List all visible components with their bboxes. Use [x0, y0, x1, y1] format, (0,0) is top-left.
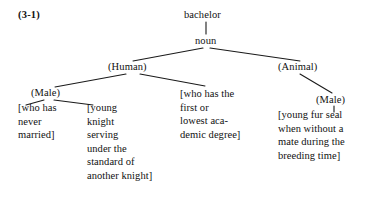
tree-node-animal: (Animal): [278, 61, 317, 72]
edge-human-to-male: [55, 74, 126, 87]
gloss-line: knight: [87, 115, 152, 129]
tree-leaf-unmarried-gloss: [who has never married]: [18, 101, 57, 142]
gloss-line: never: [18, 115, 57, 129]
tree-node-human: (Human): [108, 61, 147, 72]
gloss-line: mate during the: [278, 135, 345, 149]
edge-animal-to-male: [300, 74, 332, 93]
edge-pos-to-human: [133, 48, 203, 61]
gloss-line: [who has the: [180, 87, 240, 101]
tree-leaf-degree-gloss: [who has the first or lowest aca- demic …: [180, 87, 240, 141]
gloss-line: standard of: [87, 155, 152, 169]
gloss-line: [young: [87, 101, 152, 115]
gloss-line: demic degree]: [180, 128, 240, 142]
figure-canvas: (3-1) bachelor noun (Human) (Animal) (Ma…: [0, 0, 374, 203]
gloss-line: under the: [87, 142, 152, 156]
gloss-line: [young fur seal: [278, 108, 345, 122]
gloss-line: when without a: [278, 122, 345, 136]
edge-human-to-degree: [140, 74, 205, 86]
gloss-line: lowest aca-: [180, 114, 240, 128]
tree-node-headword: bachelor: [184, 9, 221, 20]
figure-reference-label: (3-1): [18, 9, 40, 20]
edge-pos-to-animal: [210, 48, 300, 61]
gloss-line: serving: [87, 128, 152, 142]
tree-leaf-seal-gloss: [young fur seal when without a mate duri…: [278, 108, 345, 162]
gloss-line: another knight]: [87, 169, 152, 183]
gloss-line: married]: [18, 128, 57, 142]
gloss-line: first or: [180, 101, 240, 115]
tree-node-male-animal: (Male): [316, 94, 345, 105]
gloss-line: breeding time]: [278, 149, 345, 163]
tree-node-male-human: (Male): [31, 87, 60, 98]
tree-leaf-knight-gloss: [young knight serving under the standard…: [87, 101, 152, 183]
tree-node-part-of-speech: noun: [195, 35, 216, 46]
gloss-line: [who has: [18, 101, 57, 115]
